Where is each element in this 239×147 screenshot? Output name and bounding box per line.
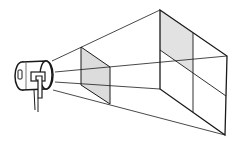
near-frame bbox=[81, 47, 110, 104]
projection-diagram bbox=[0, 0, 239, 147]
far-frame-shaded-cell bbox=[160, 10, 193, 73]
frustum-rays bbox=[52, 10, 227, 135]
diagram-svg bbox=[0, 0, 239, 147]
projector-icon bbox=[15, 61, 53, 112]
